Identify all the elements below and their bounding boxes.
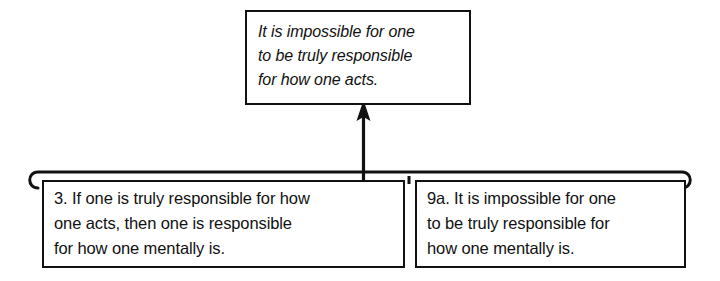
premise-node-3[interactable]: 3. If one is truly responsible for how o… — [42, 180, 405, 268]
premise-3-text: 3. If one is truly responsible for how o… — [44, 186, 403, 263]
conclusion-node[interactable]: It is impossible for one to be truly res… — [245, 10, 471, 105]
premise-9a-text: 9a. It is impossible for one to be truly… — [417, 186, 684, 263]
conclusion-text: It is impossible for one to be truly res… — [247, 20, 469, 95]
premise-node-9a[interactable]: 9a. It is impossible for one to be truly… — [415, 180, 686, 268]
inference-arrow-icon — [330, 95, 400, 185]
argument-diagram-canvas: It is impossible for one to be truly res… — [0, 0, 720, 281]
